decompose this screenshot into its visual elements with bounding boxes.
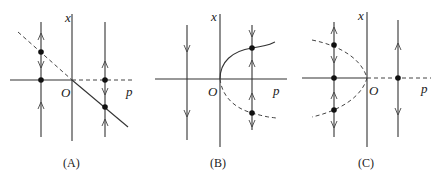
stable-branch-upper-b bbox=[220, 42, 275, 79]
p-axis-label: p bbox=[125, 84, 133, 99]
p-axis-label: p bbox=[420, 81, 428, 96]
unstable-branch-diagonal-a bbox=[18, 32, 72, 80]
equilibrium-point bbox=[395, 75, 401, 81]
equilibrium-point bbox=[102, 104, 108, 110]
panel-caption-c: (C) bbox=[358, 156, 374, 170]
equilibrium-point bbox=[331, 107, 337, 113]
equilibrium-point bbox=[249, 110, 255, 116]
equilibrium-point bbox=[331, 75, 337, 81]
x-axis-label: x bbox=[210, 9, 217, 24]
panel-caption-b: (B) bbox=[210, 156, 226, 170]
panel-c: x O p (C) bbox=[302, 8, 431, 170]
equilibrium-point bbox=[38, 77, 44, 83]
bifurcation-figure: x O p (A) x O p (B) bbox=[0, 0, 440, 177]
panel-caption-a: (A) bbox=[63, 156, 80, 170]
equilibrium-point bbox=[249, 45, 255, 51]
origin-label: O bbox=[208, 84, 218, 99]
equilibrium-point bbox=[102, 77, 108, 83]
equilibrium-point bbox=[331, 42, 337, 48]
origin-label: O bbox=[61, 85, 71, 100]
panel-a: x O p (A) bbox=[10, 10, 135, 170]
stable-branch-diagonal-a bbox=[72, 80, 128, 127]
equilibrium-point bbox=[38, 49, 44, 55]
panel-b: x O p (B) bbox=[155, 9, 287, 170]
origin-label: O bbox=[369, 83, 379, 98]
p-axis-label: p bbox=[272, 83, 280, 98]
unstable-branch-lower-b bbox=[220, 79, 276, 118]
x-axis-label: x bbox=[64, 10, 71, 25]
x-axis-label: x bbox=[357, 8, 364, 23]
